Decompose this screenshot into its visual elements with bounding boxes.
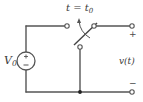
- output-terminal-plus: [130, 24, 134, 28]
- switch-terminal-left: [65, 24, 69, 28]
- output-plus-sign: +: [129, 30, 137, 39]
- voltage-source-icon: [17, 52, 35, 70]
- source-label-base: V: [4, 54, 12, 67]
- output-terminal-minus: [130, 90, 134, 94]
- circuit-diagram: t = t0 V0 + v(t) −: [0, 0, 143, 102]
- switch-icon: [74, 18, 97, 45]
- junction-dot: [78, 90, 82, 94]
- arrow-head-icon: [77, 18, 81, 23]
- switch-terminal-right: [92, 24, 96, 28]
- switch-terminal-bottom: [78, 45, 82, 49]
- source-label-sub: 0: [12, 59, 17, 68]
- switch-time-sub: 0: [89, 7, 93, 15]
- output-voltage-label: v(t): [119, 57, 135, 66]
- source-label: V0: [4, 55, 17, 68]
- output-minus-sign: −: [129, 79, 137, 88]
- switch-time-label: t = t0: [66, 3, 93, 15]
- switch-time-base: t = t: [66, 2, 89, 13]
- circuit-schematic: [0, 0, 143, 102]
